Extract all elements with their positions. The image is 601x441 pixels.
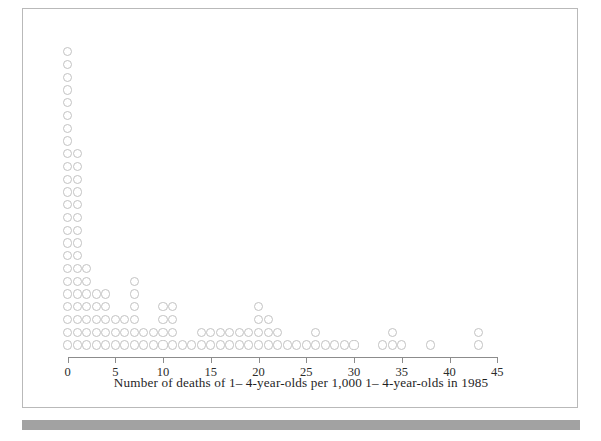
data-point: [73, 340, 82, 349]
data-point: [225, 328, 234, 337]
data-point: [273, 328, 282, 337]
x-axis-tick: [211, 357, 212, 363]
data-point: [168, 302, 177, 311]
data-point: [101, 302, 110, 311]
data-point: [82, 302, 91, 311]
data-point: [149, 340, 158, 349]
data-point: [63, 302, 72, 311]
x-axis-tick: [306, 357, 307, 363]
data-point: [474, 340, 483, 349]
data-point: [235, 328, 244, 337]
data-point: [82, 289, 91, 298]
data-point: [101, 315, 110, 324]
data-point: [63, 277, 72, 286]
data-point: [311, 328, 320, 337]
data-point: [63, 340, 72, 349]
data-point: [73, 289, 82, 298]
data-point: [235, 340, 244, 349]
data-point: [120, 328, 129, 337]
data-point: [82, 328, 91, 337]
data-point: [388, 328, 397, 337]
data-point: [321, 340, 330, 349]
data-point: [92, 289, 101, 298]
data-point: [111, 328, 120, 337]
data-point: [130, 315, 139, 324]
data-point: [63, 264, 72, 273]
data-point: [63, 187, 72, 196]
data-point: [206, 328, 215, 337]
data-point: [168, 315, 177, 324]
data-point: [120, 340, 129, 349]
data-point: [158, 340, 167, 349]
data-point: [149, 328, 158, 337]
data-point: [101, 289, 110, 298]
data-point: [63, 136, 72, 145]
data-point: [73, 175, 82, 184]
data-point: [73, 277, 82, 286]
figure-frame: 051015202530354045 Number of deaths of 1…: [22, 8, 578, 408]
data-point: [197, 340, 206, 349]
data-point: [264, 315, 273, 324]
data-point: [63, 251, 72, 260]
data-point: [178, 340, 187, 349]
data-point: [101, 340, 110, 349]
data-point: [92, 340, 101, 349]
data-point: [101, 328, 110, 337]
data-point: [63, 289, 72, 298]
data-point: [63, 162, 72, 171]
data-point: [168, 328, 177, 337]
data-point: [82, 340, 91, 349]
x-axis-tick: [163, 357, 164, 363]
data-point: [73, 149, 82, 158]
data-point: [73, 302, 82, 311]
data-point: [273, 340, 282, 349]
data-point: [82, 277, 91, 286]
data-point: [187, 340, 196, 349]
data-point: [340, 340, 349, 349]
data-point: [92, 328, 101, 337]
data-point: [330, 340, 339, 349]
data-point: [82, 264, 91, 273]
data-point: [73, 187, 82, 196]
data-point: [254, 315, 263, 324]
data-point: [73, 238, 82, 247]
data-point: [63, 149, 72, 158]
data-point: [397, 340, 406, 349]
data-point: [111, 340, 120, 349]
data-point: [130, 328, 139, 337]
data-point: [92, 315, 101, 324]
data-point: [63, 226, 72, 235]
x-axis-tick: [259, 357, 260, 363]
data-point: [264, 340, 273, 349]
data-point: [63, 315, 72, 324]
data-point: [254, 340, 263, 349]
data-point: [254, 328, 263, 337]
data-point: [158, 315, 167, 324]
data-point: [92, 302, 101, 311]
data-point: [63, 213, 72, 222]
data-point: [378, 340, 387, 349]
data-point: [426, 340, 435, 349]
data-point: [63, 47, 72, 56]
data-point: [302, 340, 311, 349]
data-point: [244, 340, 253, 349]
data-point: [73, 251, 82, 260]
data-point: [311, 340, 320, 349]
data-point: [73, 162, 82, 171]
data-point: [158, 302, 167, 311]
data-point: [130, 277, 139, 286]
page-bottom-bar: [22, 420, 580, 430]
data-point: [264, 328, 273, 337]
data-point: [388, 340, 397, 349]
x-axis-line: [68, 357, 498, 358]
data-point: [130, 289, 139, 298]
x-axis-tick: [402, 357, 403, 363]
data-point: [63, 328, 72, 337]
data-point: [254, 302, 263, 311]
data-point: [130, 302, 139, 311]
data-point: [158, 328, 167, 337]
data-point: [82, 315, 91, 324]
x-axis-tick: [354, 357, 355, 363]
data-point: [73, 328, 82, 337]
data-point: [63, 73, 72, 82]
